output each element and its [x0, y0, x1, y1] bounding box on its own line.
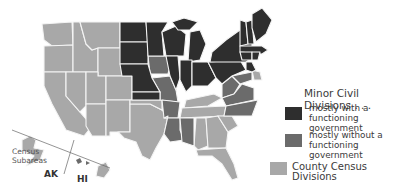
legend-swatch-with-government [285, 107, 302, 120]
state-nj [246, 62, 256, 72]
state-wa [42, 22, 73, 46]
state-nd [120, 22, 148, 42]
state-wy [98, 48, 122, 76]
state-ri [252, 52, 260, 60]
state-mi [188, 30, 206, 62]
legend-label-county-census: County Census Divisions [292, 162, 409, 182]
state-az [86, 104, 106, 136]
alaska-label: AK [44, 169, 58, 179]
legend-swatch-county-census [270, 162, 287, 175]
state-nm [106, 100, 130, 136]
census-subareas-label: Census Subareas [12, 147, 47, 165]
hawaii-label: HI [77, 174, 88, 184]
legend-label-with-government: mostly with a functioning government [309, 103, 409, 133]
state-or [44, 45, 73, 72]
state-ut [86, 72, 106, 104]
state-ks [132, 92, 160, 100]
state-fl [196, 148, 238, 180]
state-co [106, 76, 132, 100]
inset-divider-line-2 [64, 140, 74, 174]
state-sd [120, 42, 148, 64]
hi-island-tiny [86, 161, 90, 165]
legend-label-without-government: mostly without a functioning government [309, 130, 409, 160]
state-in [180, 60, 192, 92]
state-ar [162, 100, 180, 118]
hi-island-small [76, 158, 82, 164]
state-hi-big [96, 162, 110, 178]
state-ct [240, 52, 252, 60]
legend-swatch-without-government [285, 134, 302, 147]
state-me [252, 8, 272, 42]
state-ms [180, 118, 194, 146]
